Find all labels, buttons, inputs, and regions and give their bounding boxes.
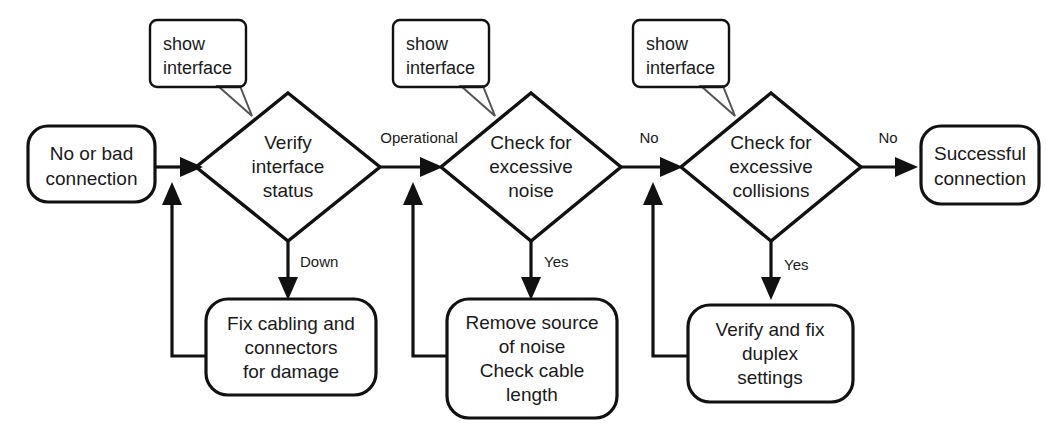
edge-label-no-collisions: No [878,129,897,146]
edge-label-operational: Operational [380,129,458,146]
node-check-excessive-noise[interactable]: Check for excessive noise [441,93,621,241]
node-verify-line-0: Verify [264,132,312,153]
callout-2-line-1: interface [406,58,475,78]
node-fix-cabling-line-0: Fix cabling and [227,313,355,334]
edge-noise-yes-to-remove-noise [521,240,541,300]
node-collisions-line-2: collisions [732,180,809,201]
callout-2-line-0: show [406,34,449,54]
node-remove-noise-line-3: length [506,384,558,405]
callout-1-line-1: interface [163,58,232,78]
edge-fix-cabling-feedback [162,182,206,356]
node-start-line-0: No or bad [50,143,133,164]
node-fix-duplex-line-2: settings [737,367,802,388]
edge-label-down: Down [300,253,338,270]
node-collisions-line-0: Check for [730,132,812,153]
node-start-line-1: connection [46,168,138,189]
node-verify-interface-status[interactable]: Verify interface status [196,93,380,241]
node-remove-noise-line-0: Remove source [465,312,598,333]
node-fix-cabling-line-1: connectors [245,337,338,358]
node-fix-cabling[interactable]: Fix cabling and connectors for damage [206,299,376,395]
node-remove-noise-line-1: of noise [499,336,566,357]
node-verify-line-2: status [263,180,314,201]
edge-verify-down-to-fix-cabling [278,240,298,300]
node-check-excessive-collisions[interactable]: Check for excessive collisions [681,93,861,241]
node-noise-line-0: Check for [490,132,572,153]
flowchart-svg: No or bad connection Verify interface st… [0,0,1046,445]
node-fix-duplex-line-1: duplex [742,343,798,364]
node-verify-line-1: interface [252,156,325,177]
node-remove-noise[interactable]: Remove source of noise Check cable lengt… [447,299,617,418]
node-noise-line-2: noise [508,180,553,201]
node-end-line-0: Successful [934,143,1026,164]
callout-tail-2 [461,86,495,116]
edge-noise-to-collisions [620,157,683,177]
edge-label-no-noise: No [639,129,658,146]
callout-3-line-0: show [646,34,689,54]
callout-show-interface-3[interactable]: show interface [633,20,729,87]
node-noise-line-1: excessive [489,156,572,177]
edge-remove-noise-feedback [403,182,447,356]
callout-3-line-1: interface [646,58,715,78]
callout-1-line-0: show [163,34,206,54]
node-remove-noise-line-2: Check cable [480,360,585,381]
edge-label-yes-noise: Yes [544,253,568,270]
node-end-line-1: connection [934,168,1026,189]
callout-show-interface-1[interactable]: show interface [150,20,246,87]
edge-collisions-yes-to-fix-duplex [761,240,781,300]
edge-verify-to-noise [380,157,443,177]
node-successful-connection[interactable]: Successful connection [921,126,1039,204]
flowchart-canvas: No or bad connection Verify interface st… [0,0,1046,445]
node-fix-duplex[interactable]: Verify and fix duplex settings [688,305,853,402]
callout-tail-1 [218,86,252,116]
callout-show-interface-2[interactable]: show interface [393,20,489,87]
edge-label-yes-collisions: Yes [784,256,808,273]
callout-tail-3 [701,86,735,116]
node-collisions-line-1: excessive [729,156,812,177]
node-start[interactable]: No or bad connection [28,126,155,202]
edge-collisions-to-success [860,157,918,177]
edge-fix-duplex-feedback [643,182,688,356]
node-fix-duplex-line-0: Verify and fix [716,319,825,340]
node-fix-cabling-line-2: for damage [243,361,339,382]
